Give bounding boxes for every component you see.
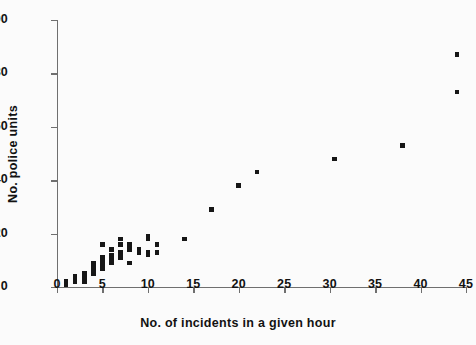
x-tick-label: 40 — [401, 277, 441, 291]
data-point — [255, 170, 260, 175]
data-point — [455, 52, 460, 57]
data-point — [137, 247, 142, 252]
y-tick — [51, 234, 57, 235]
data-point — [332, 157, 337, 162]
data-point — [82, 271, 87, 276]
data-point — [236, 183, 241, 188]
y-tick — [51, 127, 57, 128]
x-axis-title: No. of incidents in a given hour — [0, 316, 476, 330]
y-axis-title-wrapper: No. police units — [0, 0, 26, 307]
y-axis-line — [57, 20, 58, 287]
data-point — [155, 250, 160, 255]
data-point — [127, 242, 132, 247]
y-tick — [51, 73, 57, 74]
data-point — [127, 261, 132, 266]
x-tick-label: 20 — [219, 277, 259, 291]
plot-area — [57, 20, 466, 287]
data-point — [209, 207, 214, 212]
data-point — [109, 247, 114, 252]
data-point — [100, 242, 105, 247]
data-point — [155, 242, 160, 247]
y-tick — [51, 20, 57, 21]
data-point — [91, 261, 96, 266]
data-point — [455, 90, 460, 95]
data-point — [146, 234, 151, 239]
data-point — [118, 250, 123, 255]
x-tick-label: 15 — [173, 277, 213, 291]
data-point — [100, 255, 105, 260]
x-tick-label: 35 — [355, 277, 395, 291]
data-point — [146, 250, 151, 255]
x-tick-label: 0 — [37, 277, 77, 291]
x-tick-label: 25 — [264, 277, 304, 291]
y-tick — [51, 180, 57, 181]
y-axis-title: No. police units — [6, 105, 20, 203]
x-tick-label: 5 — [82, 277, 122, 291]
data-point — [118, 237, 123, 242]
data-point — [400, 143, 405, 148]
x-tick-label: 45 — [446, 277, 476, 291]
x-tick-label: 10 — [128, 277, 168, 291]
x-tick-label: 30 — [310, 277, 350, 291]
data-point — [118, 242, 123, 247]
data-point — [109, 253, 114, 258]
data-point — [182, 237, 187, 242]
scatter-plot-figure: 020406080100 051015202530354045 No. poli… — [0, 0, 476, 345]
